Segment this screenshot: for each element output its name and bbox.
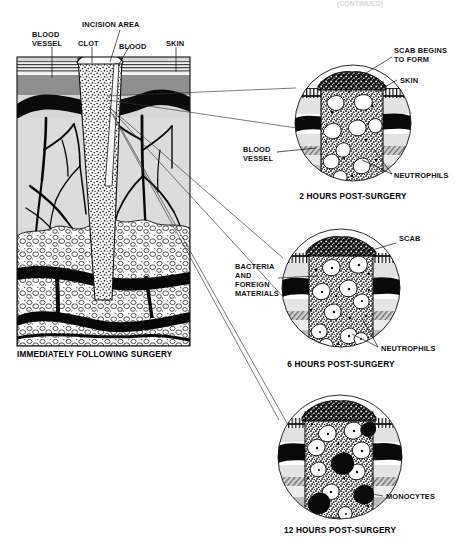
inset-2h-label-skin: SKIN xyxy=(400,76,418,85)
main-panel-caption: IMMEDIATELY FOLLOWING SURGERY xyxy=(17,350,173,359)
inset-2h-label-neutrophils: NEUTROPHILS xyxy=(394,171,449,180)
wound-healing-figure: (CONTINUED) xyxy=(0,0,465,541)
inset-6h-label-scab: SCAB xyxy=(399,234,421,243)
inset-6h-label-bacteria-line4: MATERIALS xyxy=(235,289,279,298)
inset-2h-label-blood-vessel-line2: VESSEL xyxy=(243,154,273,163)
inset-2h-label-scab-line1: SCAB BEGINS xyxy=(394,46,447,55)
inset-6h-label-bacteria-line3: FOREIGN xyxy=(235,280,270,289)
inset-2h-label-blood-vessel-line1: BLOOD xyxy=(243,145,271,154)
inset-2h-label-scab-line2: TO FORM xyxy=(394,55,429,64)
inset-2h-caption: 2 HOURS POST-SURGERY xyxy=(299,192,407,201)
main-label-incision-area: INCISION AREA xyxy=(82,20,140,29)
cropped-header-text: (CONTINUED) xyxy=(337,0,383,8)
main-label-blood-vessel-line2: VESSEL xyxy=(32,39,62,48)
inset-12-hours: MONOCYTES 12 HOURS POST-SURGERY xyxy=(278,395,435,535)
figure-canvas: (CONTINUED) xyxy=(0,0,465,541)
main-label-clot: CLOT xyxy=(78,39,99,48)
main-label-blood-vessel-line1: BLOOD xyxy=(32,30,60,39)
inset-6h-label-bacteria-line1: BACTERIA xyxy=(235,262,275,271)
inset-2-hours: SCAB BEGINS TO FORM SKIN BLOOD VESSEL NE… xyxy=(243,46,449,201)
inset-12h-caption: 12 HOURS POST-SURGERY xyxy=(284,526,397,535)
inset-6h-label-bacteria-line2: AND xyxy=(235,271,252,280)
main-label-blood: BLOOD xyxy=(119,42,147,51)
inset-12h-label-monocytes: MONOCYTES xyxy=(386,492,435,501)
inset-6h-label-neutrophils: NEUTROPHILS xyxy=(381,344,436,353)
main-panel: BLOOD VESSEL CLOT INCISION AREA BLOOD SK… xyxy=(17,20,190,359)
inset-6-hours: SCAB BACTERIA AND FOREIGN MATERIALS NEUT… xyxy=(235,229,436,369)
inset-6h-caption: 6 HOURS POST-SURGERY xyxy=(287,360,395,369)
main-label-skin: SKIN xyxy=(166,39,184,48)
